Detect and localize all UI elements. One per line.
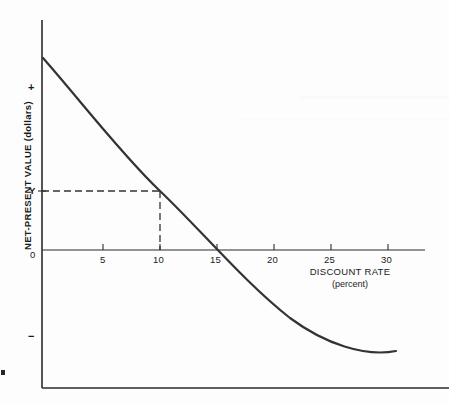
scan-artifact	[240, 118, 449, 120]
x-axis-ticks	[103, 244, 388, 250]
x-tick-label-5: 5	[100, 254, 105, 265]
chart-canvas	[0, 0, 449, 404]
y-axis-positive-sign: +	[28, 81, 34, 93]
scan-artifact	[300, 96, 449, 99]
x-tick-label-20: 20	[267, 254, 278, 265]
y-axis-zero-label: 0	[30, 249, 35, 260]
y-axis-title: NET-PRESENT VALUE (dollars)	[22, 101, 33, 250]
x-tick-label-10: 10	[153, 254, 164, 265]
npv-discount-rate-chart: NET-PRESENT VALUE (dollars) + Y 0 − 5 10…	[0, 0, 449, 404]
y-axis-negative-sign: −	[28, 330, 34, 342]
y-value-guideline	[42, 191, 160, 250]
x-axis-subtitle: (percent)	[290, 279, 410, 289]
x-tick-label-30: 30	[381, 254, 392, 265]
margin-artifact-mark	[1, 370, 5, 375]
y-axis-marker-label: Y	[29, 185, 36, 196]
x-tick-label-25: 25	[324, 254, 335, 265]
x-axis-title: DISCOUNT RATE	[290, 266, 410, 277]
x-tick-label-15: 15	[210, 254, 221, 265]
npv-curve	[43, 58, 396, 352]
